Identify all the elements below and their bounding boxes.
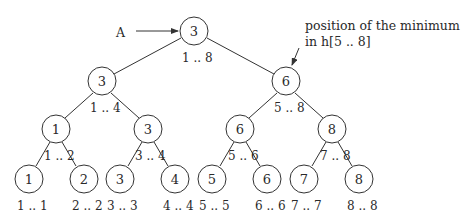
leaf-range: 7 .. 7 [291, 199, 322, 213]
svg-text:7: 7 [300, 172, 308, 187]
svg-text:3: 3 [98, 74, 106, 89]
svg-text:1: 1 [25, 172, 33, 187]
tree-leaf: 1 [15, 165, 43, 193]
annotation-arrow [292, 48, 299, 65]
leaf-range: 8 .. 8 [347, 199, 378, 213]
node-range: 3 .. 4 [135, 149, 166, 163]
tree-node: 3 [88, 67, 116, 95]
svg-text:3: 3 [190, 24, 198, 39]
leaf-range: 5 .. 5 [199, 199, 230, 213]
annotation-line-1: position of the minimum [305, 18, 460, 33]
node-range: 1 .. 4 [90, 101, 121, 115]
tree-leaf: 8 [345, 165, 373, 193]
pointer-label-a: A [115, 25, 126, 40]
leaf-range: 1 .. 1 [17, 199, 48, 213]
tree-node: 6 [226, 115, 254, 143]
svg-text:5: 5 [208, 172, 216, 187]
tree-leaf: 6 [253, 165, 281, 193]
tree-node: 6 [272, 67, 300, 95]
leaf-range: 4 .. 4 [163, 199, 194, 213]
tree-leaf: 3 [106, 165, 134, 193]
svg-text:8: 8 [328, 122, 336, 137]
tree-leaf: 5 [198, 165, 226, 193]
node-range: 5 .. 8 [274, 101, 305, 115]
leaf-range: 2 .. 2 [72, 199, 103, 213]
annotation-line-2: in h[5 .. 8] [305, 34, 371, 49]
tournament-tree-diagram: A position of the minimum in h[5 .. 8] 3… [0, 0, 463, 221]
leaf-range: 6 .. 6 [255, 199, 286, 213]
tree-leaf: 7 [290, 165, 318, 193]
svg-text:3: 3 [144, 122, 152, 137]
svg-text:8: 8 [355, 172, 363, 187]
tree-node: 1 [42, 115, 70, 143]
svg-text:3: 3 [116, 172, 124, 187]
tree-node: 3 [134, 115, 162, 143]
node-range: 1 .. 8 [182, 51, 213, 65]
tree-leaf: 4 [161, 165, 189, 193]
svg-text:2: 2 [80, 172, 88, 187]
node-range: 5 .. 6 [228, 149, 259, 163]
svg-text:1: 1 [52, 122, 60, 137]
node-range: 7 .. 8 [320, 149, 351, 163]
node-range: 1 .. 2 [44, 149, 75, 163]
tree-node: 3 [180, 17, 208, 45]
leaf-range: 3 .. 3 [107, 199, 138, 213]
tree-node: 8 [318, 115, 346, 143]
svg-text:4: 4 [171, 172, 179, 187]
svg-text:6: 6 [263, 172, 271, 187]
svg-text:6: 6 [236, 122, 244, 137]
tree-leaf: 2 [70, 165, 98, 193]
svg-text:6: 6 [282, 74, 290, 89]
